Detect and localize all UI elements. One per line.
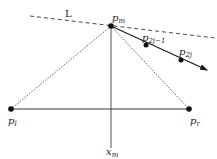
point-pm (108, 23, 114, 29)
label-pl: pl (8, 115, 17, 128)
label-pm: pm (112, 12, 125, 25)
label-L: L (65, 8, 72, 19)
label-p2j: p2j (179, 46, 193, 59)
label-xm: xm (106, 146, 119, 159)
geometry-diagram: L pm p2j−1 p2j pl pr xm (0, 0, 217, 159)
point-p2j (179, 58, 184, 63)
point-pl (8, 106, 14, 112)
arrow-line (111, 26, 207, 70)
point-pr (186, 106, 192, 112)
label-pr: pr (190, 115, 200, 128)
dotted-line-pm-pl (11, 26, 111, 109)
